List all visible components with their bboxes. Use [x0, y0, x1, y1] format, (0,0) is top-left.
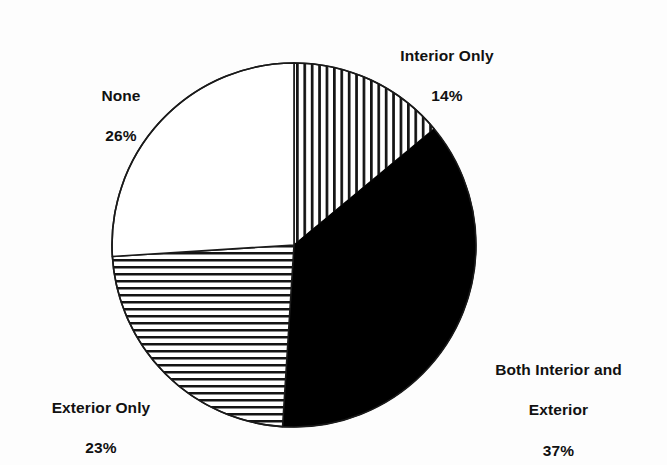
slice-label-both-value: 37%: [456, 441, 661, 461]
slice-label-both-interior-and-exterior: Both Interior and Exterior 37%: [456, 340, 661, 465]
slice-label-interior-only-value: 14%: [352, 86, 542, 106]
pie-chart-figure: Interior Only 14% None 26% Exterior Only…: [0, 0, 667, 465]
slice-label-interior-only-name: Interior Only: [352, 46, 542, 66]
slice-label-both-name-line2: Exterior: [456, 400, 661, 420]
slice-label-none-name: None: [63, 86, 179, 106]
slice-label-interior-only: Interior Only 14%: [352, 26, 542, 127]
slice-label-exterior-only: Exterior Only 23%: [8, 378, 194, 465]
slice-label-both-name-line1: Both Interior and: [456, 360, 661, 380]
slice-label-none-value: 26%: [63, 126, 179, 146]
slice-label-exterior-only-name: Exterior Only: [8, 398, 194, 418]
slice-label-exterior-only-value: 23%: [8, 438, 194, 458]
slice-label-none: None 26%: [63, 66, 179, 167]
